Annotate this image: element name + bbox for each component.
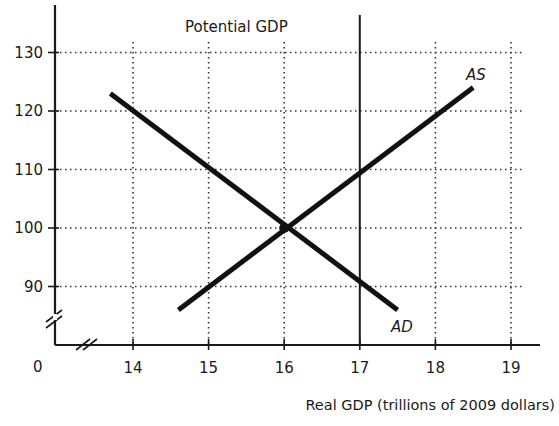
y-tick-label: 100 (14, 219, 43, 237)
y-tick-label: 130 (14, 44, 43, 62)
x-tick-label: 15 (199, 359, 218, 377)
ad-curve-label: AD (390, 318, 413, 336)
ad-curve (110, 93, 397, 309)
y-tick-label: 120 (14, 102, 43, 120)
y-tick-label: 90 (24, 278, 43, 296)
equilibrium-point (279, 223, 289, 233)
grid (55, 42, 522, 345)
x-tick-label: 16 (275, 359, 294, 377)
x-tick-label: 17 (350, 359, 369, 377)
x-tick-label: 18 (426, 359, 445, 377)
axes (46, 5, 540, 350)
curves (110, 15, 473, 345)
as-curve-label: AS (465, 66, 486, 84)
x-tick-label: 14 (123, 359, 142, 377)
origin-label: 0 (33, 358, 43, 376)
potential-gdp-label: Potential GDP (185, 18, 288, 36)
x-axis-title: Real GDP (trillions of 2009 dollars) (305, 397, 555, 413)
x-tick-label: 19 (501, 359, 520, 377)
y-tick-label: 110 (14, 161, 43, 179)
ad-as-chart: 90100110120130141516171819 Potential GDP… (0, 0, 559, 426)
as-curve (178, 88, 473, 310)
